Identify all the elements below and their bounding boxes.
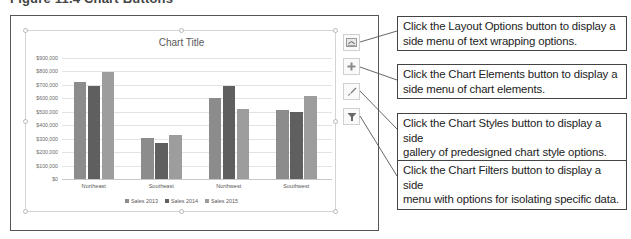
chart-object[interactable]: Chart Title Sales 2013Sales 2014Sales 20…: [25, 30, 336, 212]
callout-text-line: menu with options for isolating specific…: [403, 192, 622, 207]
callout-text-line: Click the Chart Styles button to display…: [403, 116, 622, 145]
resize-handle-top[interactable]: [179, 28, 184, 33]
legend-item[interactable]: Sales 2013: [125, 198, 158, 204]
bar-southwest-sales-2013[interactable]: [276, 110, 289, 179]
bar-southeast-sales-2015[interactable]: [169, 135, 182, 179]
legend-swatch: [125, 199, 129, 203]
legend-swatch: [205, 199, 209, 203]
legend-label: Sales 2015: [211, 198, 238, 204]
y-axis-tick-label: $300,000: [22, 136, 58, 142]
x-axis-line: [62, 179, 332, 180]
bar-southeast-sales-2013[interactable]: [141, 138, 154, 179]
chart-title[interactable]: Chart Title: [26, 37, 337, 48]
x-axis-category-label: Northwest: [199, 183, 259, 189]
y-axis-tick-label: $600,000: [22, 95, 58, 101]
legend-label: Sales 2013: [131, 198, 158, 204]
bar-northwest-sales-2015[interactable]: [237, 109, 250, 179]
y-axis-tick-label: $400,000: [22, 122, 58, 128]
callout-chart-filters: Click the Chart Filters button to displa…: [397, 160, 627, 210]
y-axis-tick-label: $700,000: [22, 82, 58, 88]
bar-northeast-sales-2015[interactable]: [102, 72, 115, 179]
resize-handle-top-right[interactable]: [333, 28, 338, 33]
x-axis-category-label: Northeast: [64, 183, 124, 189]
legend-item[interactable]: Sales 2014: [165, 198, 198, 204]
bar-northwest-sales-2013[interactable]: [209, 98, 222, 179]
chart-styles-button[interactable]: [343, 83, 360, 100]
callout-text-line: Click the Chart Elements button to displ…: [403, 67, 622, 82]
bar-southwest-sales-2014[interactable]: [290, 112, 303, 179]
figure-header: Figure 11.4 Chart Buttons: [10, 0, 173, 6]
resize-handle-bottom[interactable]: [179, 209, 184, 214]
layout-options-icon: [346, 38, 357, 47]
bar-southwest-sales-2015[interactable]: [304, 96, 317, 179]
callout-text-line: side menu of chart elements.: [403, 82, 622, 97]
legend-swatch: [165, 199, 169, 203]
plus-icon: [347, 62, 356, 71]
y-axis-tick-label: $500,000: [22, 109, 58, 115]
legend-item[interactable]: Sales 2015: [205, 198, 238, 204]
y-axis-tick-label: $100,000: [22, 163, 58, 169]
gridline: [62, 58, 332, 59]
resize-handle-bottom-right[interactable]: [333, 209, 338, 214]
bar-northeast-sales-2013[interactable]: [74, 82, 87, 179]
y-axis-tick-label: $900,000: [22, 55, 58, 61]
callout-chart-styles: Click the Chart Styles button to display…: [397, 113, 627, 163]
y-axis-tick-label: $0: [22, 176, 58, 182]
callout-chart-elements: Click the Chart Elements button to displ…: [397, 64, 627, 99]
legend-label: Sales 2014: [171, 198, 198, 204]
filter-funnel-icon: [347, 112, 357, 122]
x-axis-category-label: Southeast: [131, 183, 191, 189]
callout-text-line: gallery of predesigned chart style optio…: [403, 145, 622, 160]
callout-layout-options: Click the Layout Options button to displ…: [397, 16, 627, 51]
resize-handle-top-left[interactable]: [23, 28, 28, 33]
resize-handle-bottom-left[interactable]: [23, 209, 28, 214]
paintbrush-icon: [347, 87, 357, 97]
chart-elements-button[interactable]: [343, 58, 360, 75]
bar-southeast-sales-2014[interactable]: [155, 143, 168, 179]
resize-handle-right[interactable]: [333, 119, 338, 124]
callout-text-line: side menu of text wrapping options.: [403, 34, 622, 49]
y-axis-tick-label: $200,000: [22, 149, 58, 155]
callout-text-line: Click the Layout Options button to displ…: [403, 19, 622, 34]
layout-options-button[interactable]: [343, 34, 360, 51]
chart-legend[interactable]: Sales 2013Sales 2014Sales 2015: [26, 198, 337, 204]
bar-northwest-sales-2014[interactable]: [223, 86, 236, 179]
x-axis-category-label: Southwest: [266, 183, 326, 189]
callout-text-line: Click the Chart Filters button to displa…: [403, 163, 622, 192]
y-axis-tick-label: $800,000: [22, 68, 58, 74]
chart-filters-button[interactable]: [343, 108, 360, 125]
bar-northeast-sales-2014[interactable]: [88, 86, 101, 179]
